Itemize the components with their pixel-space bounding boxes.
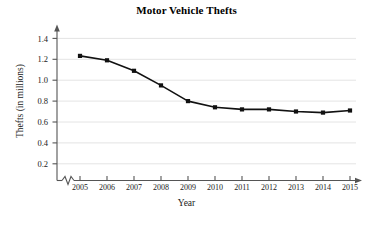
data-point-2012 [267, 107, 271, 111]
data-point-markers [78, 54, 352, 115]
data-point-2013 [294, 109, 298, 113]
data-point-2011 [240, 107, 244, 111]
y-tick-label-1.4: 1.4 [22, 34, 48, 44]
y-tick-label-1.2: 1.2 [22, 54, 48, 64]
x-tick-label-2015: 2015 [335, 183, 365, 192]
data-series-line [80, 56, 350, 113]
y-tick-label-1.0: 1.0 [22, 75, 48, 85]
x-tick-label-2006: 2006 [92, 183, 122, 192]
data-point-2005 [78, 54, 82, 58]
x-tick-label-2008: 2008 [146, 183, 176, 192]
x-axis-ticks [80, 176, 350, 181]
y-axis-ticks [53, 38, 58, 163]
x-tick-label-2005: 2005 [65, 183, 95, 192]
data-point-2007 [132, 69, 136, 73]
y-tick-label-0.4: 0.4 [22, 138, 48, 148]
x-axis-title: Year [0, 198, 373, 208]
x-tick-label-2010: 2010 [200, 183, 230, 192]
y-axis-title: Thefts (in millions) [15, 31, 25, 171]
data-point-2010 [213, 105, 217, 109]
x-tick-label-2014: 2014 [308, 183, 338, 192]
data-point-2009 [186, 99, 190, 103]
gridlines [57, 38, 356, 163]
data-point-2014 [321, 111, 325, 115]
y-tick-label-0.8: 0.8 [22, 96, 48, 106]
x-tick-label-2011: 2011 [227, 183, 257, 192]
x-tick-label-2012: 2012 [254, 183, 284, 192]
x-tick-label-2009: 2009 [173, 183, 203, 192]
x-tick-label-2013: 2013 [281, 183, 311, 192]
chart-figure: Motor Vehicle Thefts [0, 0, 373, 225]
y-tick-label-0.6: 0.6 [22, 117, 48, 127]
y-axis-arrowhead [54, 25, 60, 32]
x-tick-label-2007: 2007 [119, 183, 149, 192]
data-point-2008 [159, 83, 163, 87]
y-tick-label-0.2: 0.2 [22, 159, 48, 169]
data-point-2015 [348, 108, 352, 112]
data-point-2006 [105, 58, 109, 62]
